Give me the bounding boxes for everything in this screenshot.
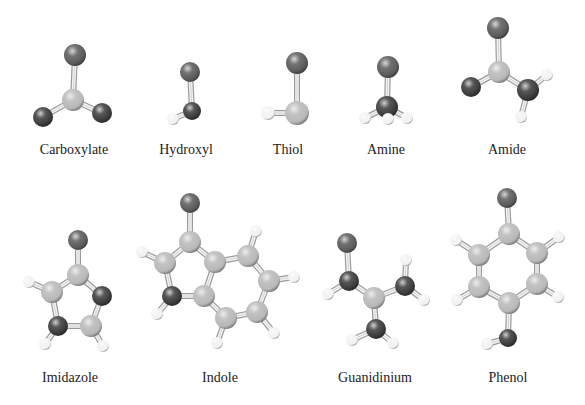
molecule-imidazole bbox=[23, 230, 112, 352]
molecule-label: Indole bbox=[202, 370, 238, 386]
molecule-amide bbox=[461, 17, 553, 123]
atom-h-icon bbox=[552, 291, 564, 303]
atom-c-icon bbox=[363, 287, 385, 309]
atom-o-icon bbox=[92, 286, 112, 306]
atom-h-icon bbox=[288, 271, 300, 283]
atom-c-icon bbox=[41, 281, 63, 303]
molecule-label: Hydroxyl bbox=[159, 142, 213, 158]
atom-h-icon bbox=[418, 294, 430, 306]
atom-h-icon bbox=[167, 113, 179, 125]
atom-c-icon bbox=[468, 244, 490, 266]
atom-r-icon bbox=[487, 17, 509, 39]
atom-c-icon bbox=[215, 307, 237, 329]
atom-c-icon bbox=[62, 89, 84, 111]
molecule-label: Imidazole bbox=[42, 370, 98, 386]
molecule-diagram bbox=[0, 0, 585, 405]
functional-groups-figure: CarboxylateHydroxylThiolAmineAmideImidaz… bbox=[0, 0, 585, 405]
atom-o-icon bbox=[366, 319, 386, 339]
atom-c-icon bbox=[67, 264, 89, 286]
molecule-label: Carboxylate bbox=[40, 142, 108, 158]
atom-h-icon bbox=[97, 340, 109, 352]
atom-o-icon bbox=[162, 286, 182, 306]
atom-c-icon bbox=[237, 245, 259, 267]
molecule-carboxylate bbox=[33, 44, 112, 127]
atom-o-icon bbox=[33, 107, 53, 127]
molecule-indole bbox=[136, 193, 300, 349]
atom-h-icon bbox=[400, 254, 412, 266]
atom-r-icon bbox=[68, 230, 88, 250]
atom-h-icon bbox=[450, 234, 462, 246]
atom-h-icon bbox=[39, 338, 51, 350]
atom-o-icon bbox=[339, 271, 359, 291]
atom-h-icon bbox=[136, 246, 148, 258]
atom-o-icon bbox=[517, 79, 539, 101]
atom-h-icon bbox=[541, 69, 553, 81]
molecule-guanidinium bbox=[322, 233, 430, 349]
atom-h-icon bbox=[211, 337, 223, 349]
atom-h-icon bbox=[346, 334, 358, 346]
atom-o-icon bbox=[461, 77, 481, 97]
molecule-phenol bbox=[450, 188, 565, 350]
atom-h-icon bbox=[553, 231, 565, 243]
atom-c-icon bbox=[526, 242, 548, 264]
molecule-label: Amide bbox=[488, 142, 526, 158]
atom-o-icon bbox=[183, 102, 201, 120]
atom-h-icon bbox=[451, 294, 463, 306]
atom-r-icon bbox=[180, 62, 200, 82]
atom-c-icon bbox=[246, 301, 268, 323]
atom-c-icon bbox=[193, 285, 215, 307]
atom-c-icon bbox=[498, 292, 520, 314]
molecule-thiol bbox=[261, 52, 309, 125]
atom-c-icon bbox=[204, 251, 226, 273]
molecule-label: Phenol bbox=[489, 370, 528, 386]
molecule-label: Thiol bbox=[273, 142, 303, 158]
molecule-label: Guanidinium bbox=[338, 370, 412, 386]
atom-c-icon bbox=[488, 61, 510, 83]
atom-h-icon bbox=[515, 111, 527, 123]
molecule-hydroxyl bbox=[167, 62, 201, 125]
atom-o-icon bbox=[48, 316, 68, 336]
atom-h-icon bbox=[250, 225, 262, 237]
molecule-label: Amine bbox=[367, 142, 405, 158]
atom-r-icon bbox=[497, 188, 517, 208]
atom-c-icon bbox=[80, 315, 102, 337]
atom-r-icon bbox=[337, 233, 357, 253]
atom-h-icon bbox=[151, 308, 163, 320]
atom-r-icon bbox=[286, 52, 308, 74]
atom-o-icon bbox=[92, 103, 112, 123]
molecule-amine bbox=[359, 56, 413, 125]
atom-h-icon bbox=[481, 338, 493, 350]
atom-o-icon bbox=[499, 329, 517, 347]
atom-r-icon bbox=[64, 44, 86, 66]
atom-c-icon bbox=[154, 252, 176, 274]
atom-c-icon bbox=[258, 270, 280, 292]
atom-h-icon bbox=[322, 288, 334, 300]
atom-h-icon bbox=[359, 112, 371, 124]
atom-h-icon bbox=[23, 276, 35, 288]
atom-h-icon bbox=[261, 106, 275, 120]
atom-c-icon bbox=[526, 273, 548, 295]
atom-h-icon bbox=[401, 112, 413, 124]
atom-r-icon bbox=[180, 193, 200, 213]
atom-c-icon bbox=[498, 223, 520, 245]
atom-c-icon bbox=[468, 276, 490, 298]
atom-c-icon bbox=[179, 231, 201, 253]
atom-h-icon bbox=[268, 327, 280, 339]
atom-h-icon bbox=[387, 337, 399, 349]
atom-r-icon bbox=[377, 56, 399, 78]
atom-h-icon bbox=[382, 113, 394, 125]
atom-c-icon bbox=[285, 101, 309, 125]
atom-o-icon bbox=[395, 276, 415, 296]
